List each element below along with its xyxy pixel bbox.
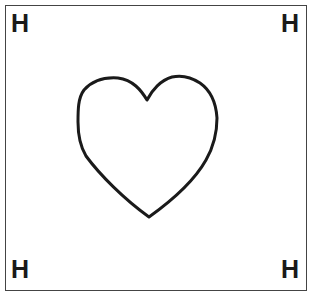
heart-outline-icon [0,0,311,296]
